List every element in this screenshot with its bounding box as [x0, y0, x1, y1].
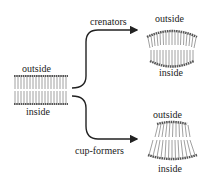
crenated-bilayer [147, 31, 197, 67]
arrow-to-crenators [72, 30, 137, 88]
inner-leaflet [14, 91, 68, 104]
crenated-inside-label: inside [159, 68, 183, 78]
arrow-to-cup-formers [72, 96, 137, 139]
cup-formed-bilayer [148, 122, 197, 159]
left-outside-label: outside [22, 64, 51, 74]
crenators-label: crenators [90, 17, 127, 27]
cup-outside-label: outside [153, 110, 182, 120]
flat-bilayer [14, 76, 68, 104]
cup-formers-label: cup-formers [75, 146, 124, 156]
left-inside-label: inside [26, 107, 50, 117]
cup-inside-label: inside [158, 164, 182, 174]
outer-leaflet [14, 76, 68, 89]
crenated-outside-label: outside [155, 14, 184, 24]
